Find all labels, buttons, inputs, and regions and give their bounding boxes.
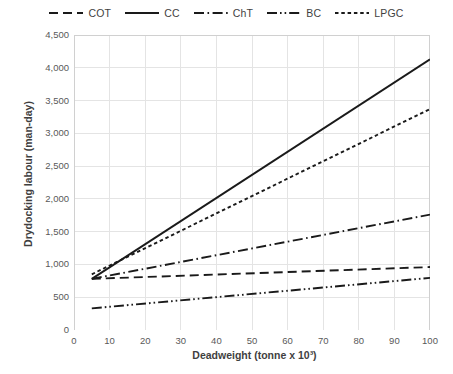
legend-line-icon [267, 8, 301, 18]
y-tick-label: 3,500 [45, 96, 69, 106]
x-tick-label: 20 [140, 336, 151, 346]
x-tick-label: 70 [318, 336, 329, 346]
legend-label-cc: CC [164, 8, 180, 19]
x-axis-title: Deadweight (tonne x 10³) [79, 349, 430, 361]
legend-item-cht[interactable]: ChT [194, 8, 253, 19]
legend-swatch-bc [267, 8, 301, 18]
legend-line-icon [125, 8, 159, 18]
y-tick-label: 2,500 [45, 161, 69, 171]
legend-line-icon [335, 8, 369, 18]
legend-label-cot: COT [88, 8, 111, 19]
legend-swatch-cot [49, 8, 83, 18]
legend-label-cht: ChT [233, 8, 253, 19]
x-tick-label: 80 [354, 336, 365, 346]
y-tick-label: 2,000 [45, 194, 69, 204]
x-tick-label: 100 [422, 336, 438, 346]
y-axis-title: Drydocking labour (man-day) [22, 64, 34, 284]
legend-swatch-cc [125, 8, 159, 18]
legend-line-icon [49, 8, 83, 18]
y-tick-label: 1,000 [45, 260, 69, 270]
x-tick-label: 90 [389, 336, 400, 346]
legend-line-icon [194, 8, 228, 18]
y-tick-label: 4,000 [45, 63, 69, 73]
x-tick-label: 30 [176, 336, 187, 346]
y-tick-label: 500 [53, 292, 69, 302]
series-line-lpgc [92, 109, 430, 274]
x-tick-label: 10 [104, 336, 115, 346]
legend-item-lpgc[interactable]: LPGC [335, 8, 403, 19]
legend-swatch-cht [194, 8, 228, 18]
legend-item-cc[interactable]: CC [125, 8, 180, 19]
plot-area: 05001,0001,5002,0002,5003,0003,5004,0004… [74, 35, 430, 330]
y-tick-label: 3,000 [45, 129, 69, 139]
legend-label-bc: BC [306, 8, 321, 19]
series-line-bc [92, 278, 430, 308]
x-tick-label: 40 [211, 336, 222, 346]
x-tick-label: 0 [71, 336, 76, 346]
x-tick-label: 50 [247, 336, 258, 346]
y-tick-label: 0 [64, 325, 69, 335]
legend-swatch-lpgc [335, 8, 369, 18]
legend-label-lpgc: LPGC [374, 8, 403, 19]
x-tick-label: 60 [282, 336, 293, 346]
plot-svg [74, 35, 430, 330]
chart-legend: COTCCChTBCLPGC [0, 8, 453, 19]
legend-item-cot[interactable]: COT [49, 8, 111, 19]
legend-item-bc[interactable]: BC [267, 8, 321, 19]
y-tick-label: 1,500 [45, 227, 69, 237]
y-tick-label: 4,500 [45, 30, 69, 40]
line-chart: COTCCChTBCLPGC Drydocking labour (man-da… [0, 0, 453, 374]
